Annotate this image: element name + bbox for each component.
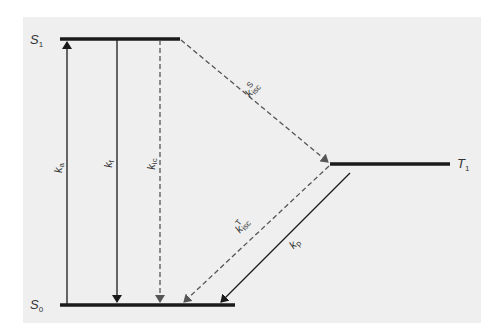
label-kisc-t: kiscT	[230, 214, 253, 237]
label-kisc-s: kiscS	[240, 78, 263, 101]
jablonski-diagram: S1 S0 T1 ka kf kic kiscS kiscT kp	[0, 0, 502, 331]
arrow-kisc-s	[181, 40, 328, 162]
label-kic: kic	[145, 158, 159, 169]
label-kf: kf	[102, 159, 116, 168]
arrow-kisc-t	[184, 166, 329, 302]
arrow-kp	[221, 173, 350, 302]
label-s0: S0	[30, 297, 44, 314]
label-s1: S1	[30, 32, 44, 49]
label-kp: kp	[286, 235, 303, 252]
label-ka: ka	[52, 162, 66, 173]
label-t1: T1	[457, 156, 470, 173]
